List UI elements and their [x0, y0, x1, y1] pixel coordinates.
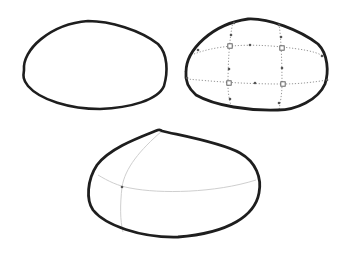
- control-dot: [233, 22, 236, 25]
- illustration-canvas: [0, 0, 347, 254]
- control-dot: [228, 68, 231, 71]
- control-dot: [280, 36, 283, 39]
- control-dot: [254, 82, 257, 85]
- plain-blob: [23, 21, 166, 109]
- outline-path: [186, 19, 327, 110]
- shape-construction-diagram: [0, 0, 347, 254]
- control-dot: [278, 24, 281, 27]
- control-dot: [197, 49, 200, 52]
- control-handle: [281, 82, 285, 86]
- control-dot: [121, 186, 124, 189]
- control-handle: [228, 44, 232, 48]
- control-dot: [230, 34, 233, 37]
- control-handle: [280, 46, 284, 50]
- control-dot: [186, 77, 189, 80]
- mesh-blob: [186, 19, 329, 110]
- control-dot: [249, 44, 252, 47]
- control-dot: [281, 67, 284, 70]
- grid-line: [194, 45, 323, 56]
- guide-line: [121, 131, 162, 232]
- outline-path: [23, 21, 166, 109]
- control-dot: [326, 79, 329, 82]
- control-dot: [278, 102, 281, 105]
- control-dot: [321, 55, 324, 58]
- control-handle: [227, 81, 231, 85]
- grid-line: [187, 79, 327, 84]
- control-dot: [229, 98, 232, 101]
- dome-blob: [88, 130, 259, 237]
